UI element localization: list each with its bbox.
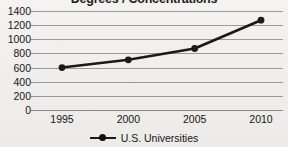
y-axis-tick-label: 1400 [0, 6, 31, 16]
x-axis-tick-label: 2000 [117, 113, 140, 125]
chart-title: Degrees / Concentrations [0, 0, 288, 6]
plot-area [34, 11, 283, 110]
legend-label-us-universities: U.S. Universities [121, 132, 199, 144]
y-axis-tick-label: 1200 [0, 20, 31, 30]
data-point-marker [125, 56, 132, 63]
y-axis-tick-label: 0 [0, 105, 31, 115]
data-point-marker [258, 17, 265, 24]
gridline [34, 110, 283, 111]
y-axis-tick-labels: 1400120010008006004002000 [0, 11, 31, 110]
legend-line-marker-icon [90, 133, 116, 143]
x-axis-tick-label: 1995 [50, 113, 73, 125]
y-axis-tick-label: 200 [0, 91, 31, 101]
data-point-marker [59, 64, 66, 71]
y-axis-tick-label: 800 [0, 48, 31, 58]
x-axis-tick-label: 2010 [249, 113, 272, 125]
data-point-marker [191, 45, 198, 52]
y-axis-tick-label: 400 [0, 77, 31, 87]
line-chart: Degrees / Concentrations 140012001000800… [0, 0, 288, 147]
x-axis-tick-label: 2005 [183, 113, 206, 125]
chart-legend: U.S. Universities [0, 130, 288, 145]
series-us-universities [34, 11, 283, 110]
x-axis-tick-labels: 1995200020052010 [34, 113, 283, 127]
y-axis-tick-label: 1000 [0, 34, 31, 44]
y-axis-tick-label: 600 [0, 63, 31, 73]
series-line [62, 20, 261, 67]
